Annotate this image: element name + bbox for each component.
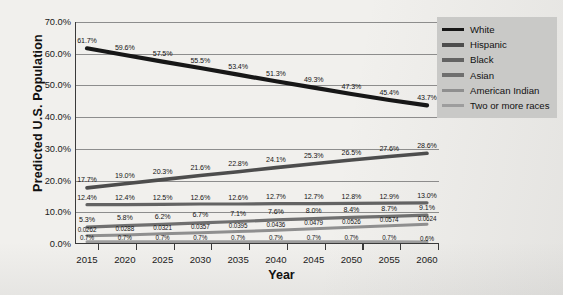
legend-item-white[interactable]: White xyxy=(442,22,553,37)
data-label: 0.7% xyxy=(307,234,321,241)
data-label: 0.0526 xyxy=(342,218,361,225)
data-label: 21.6% xyxy=(190,164,210,172)
data-label: 7.6% xyxy=(268,208,284,216)
data-label: 12.8% xyxy=(342,193,362,201)
x-tick-label: 2055 xyxy=(369,254,409,265)
data-label: 17.7% xyxy=(77,176,97,184)
legend-swatch-icon xyxy=(442,104,464,108)
legend-item-asian[interactable]: Asian xyxy=(442,68,553,83)
x-axis-title: Year xyxy=(0,268,563,282)
legend-swatch-icon xyxy=(442,58,464,62)
data-label: 0.0321 xyxy=(153,224,172,231)
data-label: 0.7% xyxy=(80,234,94,241)
legend-label: Asian xyxy=(470,70,494,81)
legend-swatch-icon xyxy=(442,28,464,32)
data-label: 0.7% xyxy=(193,234,207,241)
data-label: 25.3% xyxy=(304,152,324,160)
legend-label: Hispanic xyxy=(470,39,507,50)
y-tick-label: 60.0% xyxy=(29,49,71,59)
legend-label: Two or more races xyxy=(470,100,549,111)
data-label: 12.4% xyxy=(77,194,97,202)
data-label: 47.3% xyxy=(342,83,362,91)
data-label: 0.7% xyxy=(344,234,358,241)
data-label: 55.5% xyxy=(190,57,210,65)
data-label: 53.4% xyxy=(228,63,248,71)
line-hispanic xyxy=(87,153,427,188)
data-label: 0.0436 xyxy=(267,221,286,228)
y-tick-label: 20.0% xyxy=(29,176,71,186)
data-label: 6.7% xyxy=(192,211,208,219)
data-label: 12.6% xyxy=(190,194,210,202)
data-label: 12.9% xyxy=(379,193,399,201)
data-label: 45.4% xyxy=(379,89,399,97)
data-label: 19.0% xyxy=(115,172,135,180)
y-tick-label: 50.0% xyxy=(29,80,71,90)
data-label: 0.7% xyxy=(382,234,396,241)
plot-area: 0.0%10.0%20.0%30.0%40.0%50.0%60.0%70.0% … xyxy=(75,22,439,244)
population-projection-chart: Predicted U.S. Population Year 0.0%10.0%… xyxy=(0,0,563,295)
x-tick-label: 2045 xyxy=(294,254,334,265)
data-label: 51.3% xyxy=(266,70,286,78)
data-label: 28.6% xyxy=(417,142,437,150)
data-label: 12.7% xyxy=(266,193,286,201)
y-tick-label: 70.0% xyxy=(29,17,71,27)
data-label: 12.4% xyxy=(115,194,135,202)
data-label: 8.7% xyxy=(381,205,397,213)
data-label: 12.5% xyxy=(153,194,173,202)
legend-item-hispanic[interactable]: Hispanic xyxy=(442,37,553,52)
data-label: 0.7% xyxy=(269,234,283,241)
data-label: 22.8% xyxy=(228,160,248,168)
legend-label: Black xyxy=(470,54,493,65)
data-label: 0.0262 xyxy=(78,226,97,233)
data-label: 0.0395 xyxy=(229,222,248,229)
data-label: 7.1% xyxy=(230,210,246,218)
data-label: 20.3% xyxy=(153,168,173,176)
data-label: 0.6% xyxy=(420,235,434,242)
x-tick-label: 2020 xyxy=(105,254,145,265)
legend-swatch-icon xyxy=(442,73,464,77)
legend-item-black[interactable]: Black xyxy=(442,52,553,67)
x-tick-label: 2030 xyxy=(180,254,220,265)
data-label: 24.1% xyxy=(266,156,286,164)
data-label: 0.7% xyxy=(118,234,132,241)
y-tick-label: 30.0% xyxy=(29,144,71,154)
data-label: 9.1% xyxy=(419,204,435,212)
x-tick-label: 2060 xyxy=(407,254,447,265)
x-axis-line xyxy=(75,243,439,244)
x-tick-label: 2035 xyxy=(218,254,258,265)
line-white xyxy=(87,48,427,105)
chart-legend: WhiteHispanicBlackAsianAmerican IndianTw… xyxy=(437,17,557,118)
legend-swatch-icon xyxy=(442,43,464,47)
data-label: 0.0574 xyxy=(380,216,399,223)
data-label: 12.6% xyxy=(228,194,248,202)
data-label: 5.3% xyxy=(79,216,95,224)
legend-swatch-icon xyxy=(442,89,464,93)
data-label: 8.4% xyxy=(344,206,360,214)
data-label: 0.0357 xyxy=(191,223,210,230)
data-label: 8.0% xyxy=(306,207,322,215)
data-label: 5.8% xyxy=(117,214,133,222)
line-black xyxy=(87,203,427,205)
x-tick-label: 2050 xyxy=(331,254,371,265)
data-label: 57.5% xyxy=(153,50,173,58)
y-tick-label: 40.0% xyxy=(29,112,71,122)
x-tick-label: 2025 xyxy=(143,254,183,265)
data-label: 43.7% xyxy=(417,94,437,102)
x-tick-label: 2040 xyxy=(256,254,296,265)
legend-label: American Indian xyxy=(470,85,539,96)
data-label: 0.7% xyxy=(231,234,245,241)
data-label: 59.6% xyxy=(115,44,135,52)
data-label: 0.7% xyxy=(156,234,170,241)
legend-item-american-indian[interactable]: American Indian xyxy=(442,83,553,98)
y-tick-label: 10.0% xyxy=(29,207,71,217)
data-label: 0.0479 xyxy=(304,219,323,226)
data-label: 0.0288 xyxy=(115,225,134,232)
data-label: 26.5% xyxy=(342,149,362,157)
legend-item-two-or-more-races[interactable]: Two or more races xyxy=(442,98,553,113)
legend-label: White xyxy=(470,24,495,35)
data-label: 12.7% xyxy=(304,193,324,201)
data-label: 13.0% xyxy=(417,192,437,200)
data-label: 61.7% xyxy=(77,37,97,45)
data-label: 49.3% xyxy=(304,76,324,84)
y-axis-line xyxy=(75,22,76,244)
